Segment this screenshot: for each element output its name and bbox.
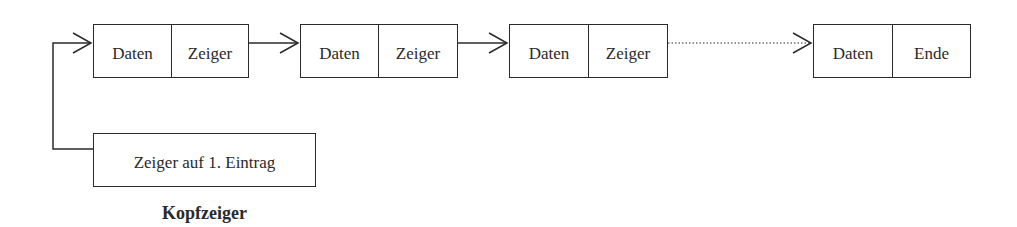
node-pointer-cell: Zeiger <box>379 25 457 77</box>
list-node-1: Daten Zeiger <box>93 24 249 78</box>
node-data-cell: Daten <box>510 25 589 77</box>
node-data-cell: Daten <box>94 25 172 77</box>
head-pointer-box: Zeiger auf 1. Eintrag <box>93 133 316 187</box>
node-end-cell: Ende <box>893 25 970 77</box>
list-node-4: Daten Ende <box>813 24 971 78</box>
node-data-cell: Daten <box>301 25 379 77</box>
head-connector-line <box>53 43 93 149</box>
list-node-3: Daten Zeiger <box>509 24 668 78</box>
node-pointer-cell: Zeiger <box>589 25 667 77</box>
list-node-2: Daten Zeiger <box>300 24 458 78</box>
node-pointer-cell: Zeiger <box>172 25 248 77</box>
head-pointer-label: Kopfzeiger <box>93 203 316 224</box>
node-data-cell: Daten <box>814 25 893 77</box>
